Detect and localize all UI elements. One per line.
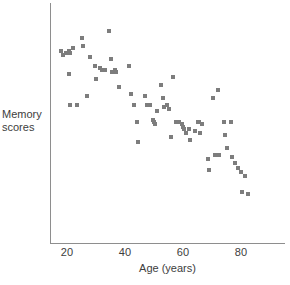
data-point <box>132 103 136 107</box>
x-axis-label: Age (years) <box>50 262 285 274</box>
data-point <box>107 29 111 33</box>
data-point <box>200 122 204 126</box>
data-point <box>193 129 197 133</box>
data-point <box>213 153 217 157</box>
data-point <box>161 96 165 100</box>
data-point <box>182 127 186 131</box>
data-point <box>243 174 247 178</box>
data-point <box>216 88 220 92</box>
data-point <box>239 170 243 174</box>
data-point <box>103 68 107 72</box>
data-point <box>117 85 121 89</box>
x-tick-label-20: 20 <box>52 246 82 258</box>
scatter-plot-figure: Memory scores 20 40 60 80 Age (years) <box>0 0 290 285</box>
data-point <box>68 51 72 55</box>
data-point <box>81 44 85 48</box>
data-point <box>143 94 147 98</box>
data-point <box>165 103 169 107</box>
data-point <box>159 83 163 87</box>
data-point <box>67 72 71 76</box>
data-point <box>135 120 139 124</box>
data-point <box>71 46 75 50</box>
data-point <box>136 140 140 144</box>
data-point <box>93 64 97 68</box>
data-point <box>236 166 240 170</box>
data-point <box>127 64 131 68</box>
data-point <box>75 103 79 107</box>
data-point <box>225 146 229 150</box>
data-point <box>171 75 175 79</box>
data-point <box>85 94 89 98</box>
data-point <box>109 57 113 61</box>
data-point <box>206 157 210 161</box>
x-tick-label-80: 80 <box>226 246 256 258</box>
data-point <box>155 109 159 113</box>
data-point <box>222 120 226 124</box>
y-axis-label-line-1: Memory <box>2 108 46 121</box>
data-point <box>229 120 233 124</box>
y-axis-label-line-2: scores <box>2 121 46 134</box>
data-point <box>240 190 244 194</box>
data-point <box>68 103 72 107</box>
data-point <box>88 55 92 59</box>
data-point <box>169 135 173 139</box>
data-point <box>187 127 191 131</box>
data-point <box>167 107 171 111</box>
data-point <box>184 131 188 135</box>
data-point <box>129 92 133 96</box>
data-point-group <box>59 29 250 196</box>
data-point <box>94 77 98 81</box>
data-point <box>114 70 118 74</box>
data-point <box>198 131 202 135</box>
x-tick-label-60: 60 <box>168 246 198 258</box>
data-point <box>148 103 152 107</box>
data-point <box>153 122 157 126</box>
plot-canvas <box>0 0 290 285</box>
data-point <box>233 161 237 165</box>
x-tick-label-40: 40 <box>110 246 140 258</box>
data-point <box>223 133 227 137</box>
y-axis-label: Memory scores <box>2 108 46 133</box>
data-point <box>80 36 84 40</box>
data-point <box>207 168 211 172</box>
data-point <box>246 192 250 196</box>
data-point <box>59 49 63 53</box>
data-point <box>217 153 221 157</box>
data-point <box>188 138 192 142</box>
data-point <box>230 155 234 159</box>
data-point <box>211 96 215 100</box>
